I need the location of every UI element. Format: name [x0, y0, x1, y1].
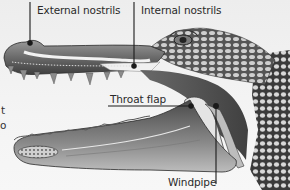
cropped-text-fragment: o [0, 119, 6, 131]
label-external-nostrils: External nostrils [37, 4, 121, 16]
label-windpipe: Windpipe [168, 176, 216, 188]
cropped-text-fragment: t [1, 104, 5, 116]
diagram-canvas: External nostrils Internal nostrils Thro… [0, 0, 290, 190]
label-throat-flap: Throat flap [110, 93, 166, 105]
label-internal-nostrils: Internal nostrils [141, 4, 221, 16]
